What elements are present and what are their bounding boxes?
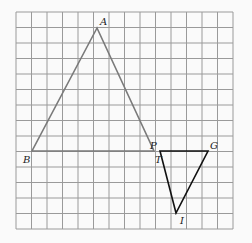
label-i: I (179, 215, 185, 226)
label-g: G (210, 140, 218, 151)
grid-diagram: A B T P G I (0, 0, 252, 243)
label-a: A (99, 16, 107, 27)
label-b: B (22, 154, 30, 165)
label-p: P (149, 140, 157, 151)
